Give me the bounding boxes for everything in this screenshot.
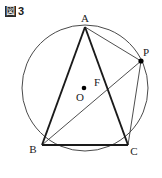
point-label-A: A xyxy=(81,12,89,24)
point-label-B: B xyxy=(29,143,36,155)
point-label-O: O xyxy=(76,91,84,103)
point-label-P: P xyxy=(143,46,149,58)
point-O-dot xyxy=(82,86,87,91)
geometry-canvas: A B C P O F xyxy=(0,0,162,178)
segment-AC xyxy=(85,27,128,145)
geometry-figure: 図 3 A B C P O F xyxy=(0,0,162,178)
segment-PC xyxy=(128,61,141,145)
point-label-F: F xyxy=(94,76,100,88)
point-P-dot xyxy=(138,58,143,63)
point-label-C: C xyxy=(130,145,137,157)
